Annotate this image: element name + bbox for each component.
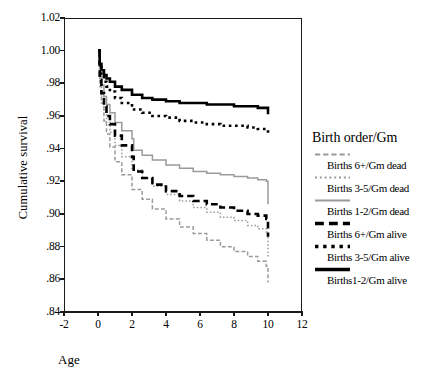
x-tick-label: 2 — [119, 318, 145, 330]
y-axis-title: Cumulative survival — [16, 98, 31, 238]
legend-item[interactable]: Births 6+/Gm dead — [310, 150, 435, 172]
y-tick-label: .88 — [46, 241, 60, 252]
survival-curves — [64, 18, 302, 312]
x-tick-mark — [233, 311, 235, 316]
legend-item[interactable]: Births 1-2/Gm dead — [310, 196, 435, 218]
x-tick-mark — [301, 311, 303, 316]
x-tick-mark — [199, 311, 201, 316]
x-tick-label: 6 — [187, 318, 213, 330]
x-tick-label: 0 — [85, 318, 111, 330]
legend-swatch-dotted-icon — [314, 173, 362, 182]
legend-item-label: Births1-2/Gm alive — [327, 274, 435, 287]
y-tick-label: 1.00 — [41, 45, 60, 56]
legend-swatch-solid-icon — [314, 265, 362, 274]
legend-item-label: Births 3-5/Gm dead — [327, 182, 435, 195]
legend-item[interactable]: Births 6+/Gm alive — [310, 219, 435, 241]
y-tick-label: 1.02 — [41, 12, 60, 23]
x-tick-mark — [165, 311, 167, 316]
x-tick-mark — [63, 311, 65, 316]
y-tick-label: .98 — [46, 77, 60, 88]
y-tick-label: .84 — [46, 306, 60, 317]
legend-item-label: Births 6+/Gm dead — [327, 159, 435, 172]
x-tick-label: -2 — [51, 318, 77, 330]
legend-item[interactable]: Births 3-5/Gm dead — [310, 173, 435, 195]
legend-title: Birth order/Gm — [312, 130, 435, 146]
x-tick-label: 8 — [221, 318, 247, 330]
y-tick-label: .90 — [46, 208, 60, 219]
x-tick-label: 10 — [255, 318, 281, 330]
x-tick-label: 4 — [153, 318, 179, 330]
curve-births-3-5-gm-alive — [98, 51, 268, 134]
curve-births-6-gm-alive — [98, 51, 268, 237]
curve-births-3-5-gm-dead — [98, 51, 268, 257]
curve-births1-2-gm-alive — [98, 51, 268, 115]
legend-items: Births 6+/Gm deadBirths 3-5/Gm deadBirth… — [310, 150, 435, 287]
chart-legend: Birth order/Gm Births 6+/Gm deadBirths 3… — [310, 130, 435, 288]
legend-swatch-solid-icon — [314, 196, 362, 205]
survival-chart: 1.021.00.98.96.94.92.90.88.86.84 -202468… — [0, 0, 435, 387]
legend-swatch-dashed-icon — [314, 219, 362, 228]
curve-births-6-gm-dead — [98, 51, 268, 283]
legend-swatch-dashed-icon — [314, 150, 362, 159]
legend-item[interactable]: Births1-2/Gm alive — [310, 265, 435, 287]
x-tick-mark — [97, 311, 99, 316]
legend-swatch-dotted-icon — [314, 242, 362, 251]
x-tick-mark — [267, 311, 269, 316]
y-tick-label: .92 — [46, 175, 60, 186]
y-tick-label: .86 — [46, 273, 60, 284]
x-tick-label: 12 — [289, 318, 315, 330]
curve-births-1-2-gm-dead — [98, 51, 268, 205]
legend-item-label: Births 6+/Gm alive — [327, 228, 435, 241]
legend-item[interactable]: Births 3-5/Gm alive — [310, 242, 435, 264]
x-axis-title: Age — [58, 352, 80, 368]
y-tick-label: .96 — [46, 110, 60, 121]
y-tick-label: .94 — [46, 143, 60, 154]
legend-item-label: Births 1-2/Gm dead — [327, 205, 435, 218]
x-tick-mark — [131, 311, 133, 316]
legend-item-label: Births 3-5/Gm alive — [327, 251, 435, 264]
